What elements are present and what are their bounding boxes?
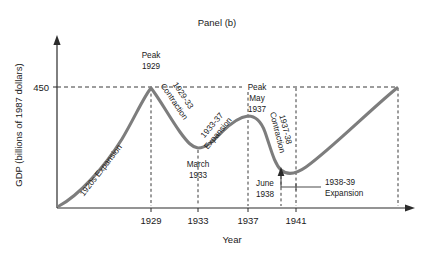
y-tick-label-450: 450 <box>33 82 49 93</box>
x-tick-label-1929: 1929 <box>140 215 161 226</box>
annotation-peak-may-1937-line3: 1937 <box>248 105 267 114</box>
annotation-june-1938-line1: June <box>256 179 274 188</box>
x-tick-label-1933: 1933 <box>187 215 208 226</box>
leader-path <box>281 176 321 187</box>
annotation-contraction-1929-33: 1929-33 Contraction <box>159 81 196 122</box>
y-axis-arrowhead <box>53 35 60 45</box>
annotation-march-1933-line2: 1933 <box>189 171 208 180</box>
annotation-june-1938: June 1938 <box>256 179 275 199</box>
annotation-march-1933: March 1933 <box>187 160 210 180</box>
x-axis-arrowhead <box>405 204 415 211</box>
y-axis-label: GDP (billions of 1987 dollars) <box>13 63 24 186</box>
annotation-expansion-1938-39-line2: Expansion <box>325 189 364 198</box>
annotation-peak-1929-line1: Peak <box>142 51 162 60</box>
annotation-expansion-1938-39-line1: 1938-39 <box>325 178 355 187</box>
annotation-peak-may-1937-line2: May <box>249 94 265 103</box>
x-axis-label: Year <box>222 234 241 245</box>
annotation-expansion-1933-37: 1933-37 Expansion <box>199 111 234 151</box>
gdp-business-cycle-chart: Panel (b) GDP (billions of 1987 dollars)… <box>0 0 434 262</box>
annotation-june-1938-line2: 1938 <box>256 190 275 199</box>
annotation-peak-may-1937-line1: Peak <box>248 83 268 92</box>
x-axis-ticks <box>151 208 296 212</box>
annotation-expansion-1938-39: 1938-39 Expansion <box>325 178 364 198</box>
annotation-peak-1929-line2: 1929 <box>142 62 161 71</box>
annotation-1920s-expansion: 1920s Expansion <box>78 143 124 198</box>
x-tick-label-1941: 1941 <box>285 215 306 226</box>
x-tick-label-1937: 1937 <box>237 215 258 226</box>
annotation-march-1933-line1: March <box>187 160 210 169</box>
annotation-peak-may-1937: Peak May 1937 <box>248 83 268 114</box>
chart-title: Panel (b) <box>198 17 237 28</box>
annotation-peak-1929: Peak 1929 <box>142 51 162 71</box>
